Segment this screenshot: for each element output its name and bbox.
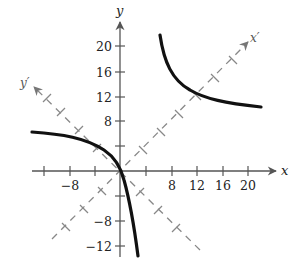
y-tick-label-16: 16 [96, 65, 112, 80]
x-tick-label-20: 20 [240, 178, 256, 193]
x-tick-label-m8: −8 [61, 178, 79, 193]
y-prime-label: y′ [19, 76, 30, 90]
hyperbola-curves [32, 35, 261, 256]
rotated-axes: x′ y′ [19, 31, 260, 250]
y-tick-label-m8: −8 [94, 214, 112, 229]
y-axis-label: y [115, 3, 124, 18]
upper-branch-curve [160, 35, 261, 107]
x-axis-label: x [281, 163, 289, 178]
x-tick-label-16: 16 [215, 178, 231, 193]
x-tick-label-8: 8 [168, 178, 176, 193]
y-prime-axis [34, 87, 200, 250]
lower-branch-curve [32, 132, 138, 256]
x-prime-label: x′ [250, 31, 260, 45]
y-tick-label-12: 12 [96, 90, 112, 105]
y-tick-label-8: 8 [104, 114, 112, 129]
y-tick-label-20: 20 [96, 39, 112, 54]
hyperbola-graph: x′ y′ −8 8 12 [0, 0, 292, 268]
x-tick-label-12: 12 [189, 178, 205, 193]
y-tick-label-m12: −12 [86, 239, 112, 254]
